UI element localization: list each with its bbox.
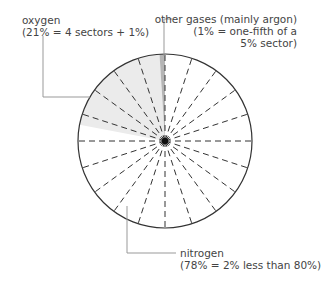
argon-label-detail-1: (1% = one-fifth of a [155,25,297,37]
oxygen-label-title: oxygen [22,14,149,26]
nitrogen-label-detail: (78% = 2% less than 80%) [180,259,321,271]
center-dot [162,138,168,144]
argon-label-detail-2: 5% sector) [155,37,297,49]
oxygen-leader-line [43,36,90,97]
nitrogen-label: nitrogen (78% = 2% less than 80%) [180,247,321,271]
oxygen-label: oxygen (21% = 4 sectors + 1%) [22,14,149,38]
nitrogen-label-title: nitrogen [180,247,321,259]
argon-label: other gases (mainly argon) (1% = one-fif… [155,13,297,49]
oxygen-label-detail: (21% = 4 sectors + 1%) [22,26,149,38]
argon-label-title: other gases (mainly argon) [155,13,297,25]
